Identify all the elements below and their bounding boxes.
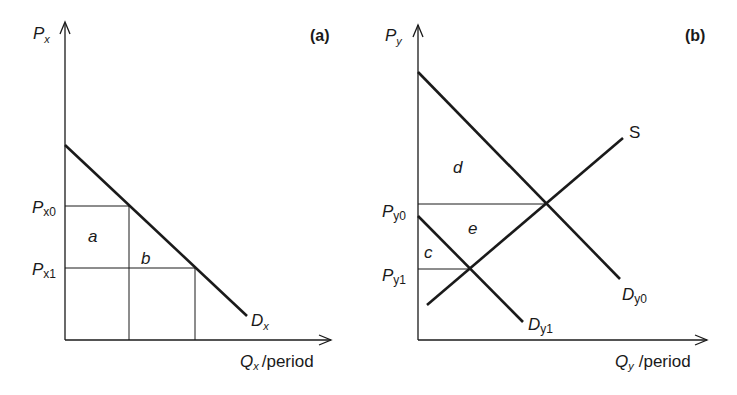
area-e-label: e bbox=[468, 219, 477, 238]
py1-label: Py1 bbox=[382, 266, 406, 287]
panel-b: Py (b) Py0 Py1 d e c S Dy0 Dy1 Qy/period bbox=[382, 25, 707, 372]
area-a-label: a bbox=[88, 227, 97, 246]
panel-a-x-axis-label: Qx/period bbox=[240, 352, 314, 372]
panel-a: Px (a) Px0 Px1 a b Dx Qx/period bbox=[32, 22, 331, 372]
px0-label: Px0 bbox=[32, 198, 56, 219]
figure-canvas: Px (a) Px0 Px1 a b Dx Qx/period Py (b) P… bbox=[0, 0, 737, 395]
dx-label: Dx bbox=[251, 311, 269, 332]
panel-b-label: (b) bbox=[685, 27, 705, 44]
panel-b-x-axis-label: Qy/period bbox=[615, 352, 691, 372]
px1-label: Px1 bbox=[32, 260, 56, 281]
panel-a-y-axis-label: Px bbox=[33, 24, 50, 45]
area-d-label: d bbox=[453, 158, 463, 177]
area-c-label: c bbox=[424, 243, 433, 262]
area-b-label: b bbox=[141, 249, 150, 268]
py0-label: Py0 bbox=[382, 202, 406, 223]
panel-a-label: (a) bbox=[310, 27, 330, 44]
panel-b-y-axis-label: Py bbox=[385, 26, 403, 47]
supply-s-label: S bbox=[629, 123, 640, 142]
dy1-label: Dy1 bbox=[528, 315, 553, 336]
dy0-label: Dy0 bbox=[622, 285, 647, 306]
